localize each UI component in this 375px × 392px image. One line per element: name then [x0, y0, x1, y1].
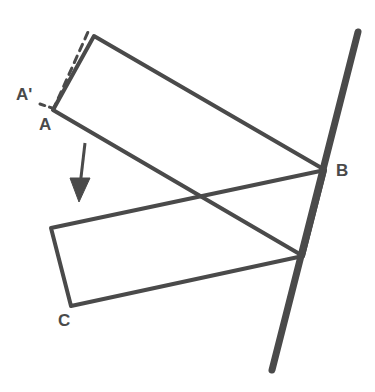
vertex-label-b: B [336, 162, 348, 179]
figure-canvas [0, 0, 375, 392]
vertex-label-a: A [39, 116, 51, 133]
geometry-figure: A' A B C [0, 0, 375, 392]
vertex-label-c: C [58, 312, 70, 329]
vertex-label-a-prime: A' [16, 86, 32, 103]
